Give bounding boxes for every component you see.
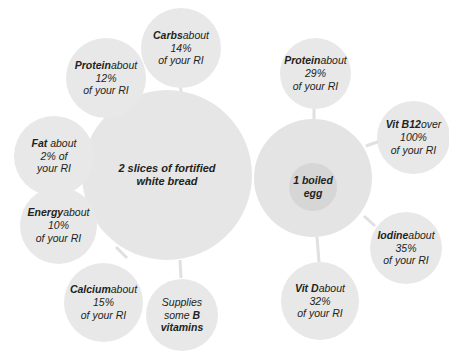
node-egg-vitd-head: Vit D [295, 282, 319, 294]
node-bread-energy-head: Energy [28, 206, 64, 218]
node-egg-vitd-text: Vit Dabout 32% of your RI [281, 282, 359, 320]
node-egg-protein-head: Protein [284, 54, 320, 66]
node-bread-bvit-post: vitamins [161, 321, 204, 333]
node-egg-vitb12-head: Vit B12 [386, 118, 421, 130]
node-bubble-bread-b-vitamins[interactable]: Supplies some B vitamins [146, 279, 218, 351]
hub-egg-label: 1 boiled egg [290, 174, 336, 200]
node-bread-calcium-text: Calciumabout 15% of your RI [64, 283, 143, 321]
node-bread-bvit-head: B [192, 309, 200, 321]
node-egg-protein-text: Proteinabout 29% of your RI [280, 54, 351, 92]
node-bubble-bread-energy[interactable]: Energyabout 10% of your RI [20, 187, 97, 264]
node-bubble-bread-fat[interactable]: Fat about 2% of your RI [14, 116, 94, 196]
node-bread-calcium-head: Calcium [70, 283, 111, 295]
nutrition-bubble-infographic: 2 slices of fortified white bread 1 boil… [0, 0, 449, 359]
connector-bread-bvit [180, 260, 181, 278]
node-bubble-bread-calcium[interactable]: Calciumabout 15% of your RI [64, 263, 143, 342]
node-bread-carbs-head: Carbs [153, 29, 183, 41]
node-egg-iodine-text: Iodineabout 35% of your RI [370, 229, 442, 267]
connector-egg-vitd [317, 237, 319, 262]
node-bread-carbs-text: Carbsabout 14% of your RI [141, 29, 221, 67]
node-bubble-bread-carbs[interactable]: Carbsabout 14% of your RI [141, 8, 221, 88]
node-bubble-egg-vit-d[interactable]: Vit Dabout 32% of your RI [281, 262, 359, 340]
node-bubble-egg-protein[interactable]: Proteinabout 29% of your RI [280, 38, 351, 109]
node-bread-bvit-text: Supplies some B vitamins [158, 296, 207, 334]
node-bubble-bread-protein[interactable]: Proteinabout 12% of your RI [66, 38, 146, 118]
node-egg-iodine-head: Iodine [377, 229, 408, 241]
connector-egg-iodine [364, 216, 375, 226]
node-bread-protein-text: Proteinabout 12% of your RI [66, 59, 146, 97]
node-bubble-egg-iodine[interactable]: Iodineabout 35% of your RI [370, 212, 442, 284]
node-bread-fat-head: Fat [32, 137, 48, 149]
hub-bubble-egg-core[interactable]: 1 boiled egg [289, 163, 337, 211]
node-bread-protein-head: Protein [75, 59, 111, 71]
hub-bread-label: 2 slices of fortified white bread [115, 162, 218, 189]
node-bread-energy-text: Energyabout 10% of your RI [20, 206, 97, 244]
node-bubble-egg-vit-b12[interactable]: Vit B12over 100% of your RI [377, 101, 449, 174]
node-bread-fat-text: Fat about 2% of your RI [29, 137, 80, 175]
node-egg-vitb12-text: Vit B12over 100% of your RI [377, 118, 449, 156]
